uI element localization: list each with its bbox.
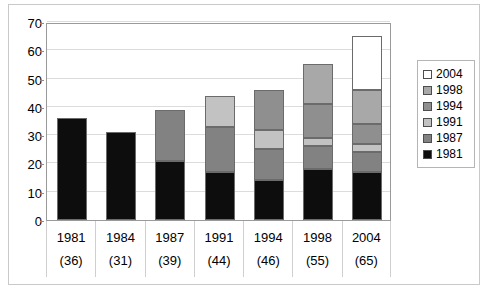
legend-label-2004: 2004 (436, 68, 463, 80)
y-tick-mark-70 (40, 23, 44, 24)
bar-segment-1987-1987[interactable] (155, 110, 185, 161)
bar-segment-2004-1991[interactable] (352, 144, 382, 152)
bar-segment-2004-1994[interactable] (352, 124, 382, 144)
bar-segment-1984-1981[interactable] (106, 132, 136, 220)
bar-segment-2004-1981[interactable] (352, 172, 382, 220)
bar-segment-1998-1987[interactable] (303, 146, 333, 169)
bar-segment-1998-1981[interactable] (303, 169, 333, 220)
bar-column-2004[interactable] (352, 36, 382, 220)
y-tick-label-70: 70 (6, 17, 42, 30)
legend-swatch-icon-1981 (423, 150, 432, 159)
bar-segment-2004-1987[interactable] (352, 152, 382, 172)
x-label-total-1998: (55) (293, 253, 341, 268)
x-label-year-1994: 1994 (244, 230, 292, 245)
x-label-year-1991: 1991 (195, 230, 243, 245)
x-category-cell-1984: 1984(31) (95, 221, 144, 277)
y-tick-label-20: 20 (6, 158, 42, 171)
plot-area (46, 23, 391, 221)
bar-segment-1991-1987[interactable] (205, 127, 235, 172)
bar-segment-1987-1981[interactable] (155, 161, 185, 220)
bar-column-1984[interactable] (106, 132, 136, 220)
legend-label-1994: 1994 (436, 100, 463, 112)
x-category-cell-1981: 1981(36) (46, 221, 95, 277)
bar-column-1987[interactable] (155, 110, 185, 220)
legend-item-1981[interactable]: 1981 (423, 146, 470, 162)
bar-column-1994[interactable] (254, 90, 284, 220)
x-label-year-1984: 1984 (96, 230, 144, 245)
legend-item-1998[interactable]: 1998 (423, 82, 470, 98)
legend-label-1991: 1991 (436, 116, 463, 128)
y-tick-mark-20 (40, 164, 44, 165)
legend-swatch-icon-1998 (423, 86, 432, 95)
bar-segment-1994-1994[interactable] (254, 90, 284, 130)
bar-segment-1991-1991[interactable] (205, 96, 235, 127)
y-tick-label-60: 60 (6, 45, 42, 58)
x-label-year-2004: 2004 (343, 230, 390, 245)
legend-item-2004[interactable]: 2004 (423, 66, 470, 82)
legend-item-1991[interactable]: 1991 (423, 114, 470, 130)
y-tick-mark-50 (40, 80, 44, 81)
y-tick-mark-0 (40, 221, 44, 222)
y-tick-label-0: 0 (6, 215, 42, 228)
chart-legend: 200419981994199119871981 (417, 60, 475, 168)
x-label-total-1987: (39) (146, 253, 194, 268)
bar-segment-1991-1981[interactable] (205, 172, 235, 220)
bar-segment-1998-1991[interactable] (303, 138, 333, 146)
x-axis-category-table: 1981(36)1984(31)1987(39)1991(44)1994(46)… (46, 221, 391, 277)
x-label-total-1994: (46) (244, 253, 292, 268)
y-tick-label-40: 40 (6, 101, 42, 114)
chart-root: 010203040506070 1981(36)1984(31)1987(39)… (0, 0, 488, 293)
bar-segment-1981-1981[interactable] (57, 118, 87, 220)
x-label-total-1991: (44) (195, 253, 243, 268)
legend-swatch-icon-2004 (423, 70, 432, 79)
x-label-total-2004: (65) (343, 253, 390, 268)
x-label-total-1984: (31) (96, 253, 144, 268)
y-tick-label-10: 10 (6, 186, 42, 199)
x-category-cell-1987: 1987(39) (145, 221, 194, 277)
y-tick-label-50: 50 (6, 73, 42, 86)
x-category-cell-1994: 1994(46) (243, 221, 292, 277)
bar-column-1998[interactable] (303, 64, 333, 220)
legend-item-1994[interactable]: 1994 (423, 98, 470, 114)
bar-segment-1994-1991[interactable] (254, 130, 284, 150)
bar-segment-1994-1987[interactable] (254, 149, 284, 180)
x-label-year-1998: 1998 (293, 230, 341, 245)
bars-layer (47, 24, 390, 220)
y-tick-label-30: 30 (6, 130, 42, 143)
x-category-cell-2004: 2004(65) (342, 221, 391, 277)
x-category-cell-1991: 1991(44) (194, 221, 243, 277)
y-tick-mark-30 (40, 136, 44, 137)
legend-item-1987[interactable]: 1987 (423, 130, 470, 146)
x-label-total-1981: (36) (47, 253, 95, 268)
legend-swatch-icon-1991 (423, 118, 432, 127)
bar-segment-2004-1998[interactable] (352, 90, 382, 124)
legend-swatch-icon-1994 (423, 102, 432, 111)
bar-column-1981[interactable] (57, 118, 87, 220)
legend-label-1998: 1998 (436, 84, 463, 96)
bar-segment-1998-1994[interactable] (303, 104, 333, 138)
bar-segment-1994-1981[interactable] (254, 180, 284, 220)
x-category-cell-1998: 1998(55) (292, 221, 341, 277)
x-label-year-1987: 1987 (146, 230, 194, 245)
legend-swatch-icon-1987 (423, 134, 432, 143)
x-label-year-1981: 1981 (47, 230, 95, 245)
y-tick-mark-40 (40, 108, 44, 109)
y-axis: 010203040506070 (2, 23, 42, 221)
y-tick-mark-10 (40, 193, 44, 194)
legend-label-1987: 1987 (436, 132, 463, 144)
bar-column-1991[interactable] (205, 96, 235, 220)
bar-segment-1998-1998[interactable] (303, 64, 333, 104)
y-tick-mark-60 (40, 51, 44, 52)
gridline-70 (47, 21, 390, 22)
plot-wrap (46, 23, 391, 221)
legend-label-1981: 1981 (436, 148, 463, 160)
bar-segment-2004-2004[interactable] (352, 36, 382, 90)
